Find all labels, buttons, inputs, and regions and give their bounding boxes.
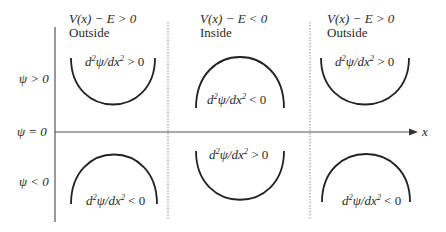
svg-text:d2ψ/dx2 < 0: d2ψ/dx2 < 0 — [207, 91, 266, 107]
equation-label-bottom-left: d2ψ/dx2 < 0 — [86, 192, 145, 208]
equation-label-top-middle: d2ψ/dx2 < 0 — [207, 91, 266, 107]
region-2-name: Outside — [327, 25, 368, 40]
svg-text:d2ψ/dx2 > 0: d2ψ/dx2 > 0 — [85, 53, 144, 69]
equation-label-bottom-middle: d2ψ/dx2 > 0 — [209, 146, 268, 162]
equation-label-top-right: d2ψ/dx2 > 0 — [335, 53, 394, 69]
x-axis-label: x — [421, 124, 428, 139]
wavefunction-curvature-diagram: x V(x) − E > 0 Outside V(x) − E < 0 Insi… — [0, 0, 446, 232]
equation-label-top-left: d2ψ/dx2 > 0 — [85, 53, 144, 69]
x-axis-arrow-icon — [409, 129, 418, 136]
region-0-name: Outside — [69, 25, 110, 40]
region-1-condition: V(x) − E < 0 — [200, 11, 268, 26]
row-label-psi-zero: ψ = 0 — [17, 124, 47, 139]
svg-text:d2ψ/dx2 > 0: d2ψ/dx2 > 0 — [209, 146, 268, 162]
region-2-condition: V(x) − E > 0 — [327, 11, 395, 26]
svg-text:d2ψ/dx2 < 0: d2ψ/dx2 < 0 — [86, 192, 145, 208]
svg-text:d2ψ/dx2 < 0: d2ψ/dx2 < 0 — [342, 192, 401, 208]
region-1-name: Inside — [200, 25, 232, 40]
row-label-psi-positive: ψ > 0 — [19, 71, 49, 86]
svg-text:d2ψ/dx2 > 0: d2ψ/dx2 > 0 — [335, 53, 394, 69]
equation-label-bottom-right: d2ψ/dx2 < 0 — [342, 192, 401, 208]
region-0-condition: V(x) − E > 0 — [69, 11, 137, 26]
row-label-psi-negative: ψ < 0 — [19, 174, 49, 189]
